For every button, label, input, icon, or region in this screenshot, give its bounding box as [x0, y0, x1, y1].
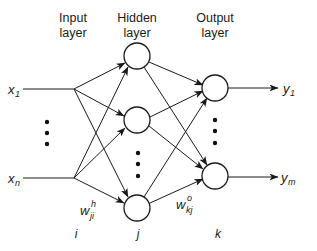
output-layer-title-2: layer — [201, 26, 228, 40]
input-hidden-edges — [74, 63, 128, 203]
output-label-ym: y m — [280, 170, 296, 187]
hidden-node-2 — [124, 107, 150, 133]
weight-label-hidden: w h ji — [80, 199, 96, 221]
output-index-label: k — [215, 227, 222, 241]
svg-text:x: x — [7, 171, 15, 186]
hidden-layer-title: Hidden — [117, 11, 157, 25]
output-layer-title: Output — [196, 11, 234, 25]
input-label-x1: x 1 — [7, 82, 20, 99]
hidden-index-label: j — [135, 227, 140, 241]
output-ellipsis — [213, 118, 217, 145]
output-label-y1: y 1 — [282, 81, 295, 98]
input-layer-title-2: layer — [59, 26, 86, 40]
svg-text:1: 1 — [290, 88, 295, 98]
input-label-xn: x n — [7, 171, 20, 188]
input-layer-title: Input — [59, 11, 87, 25]
weight-label-output: w o kj — [176, 193, 194, 215]
svg-text:ji: ji — [89, 211, 95, 221]
neural-network-diagram: Input layer Hidden layer Output layer — [0, 0, 317, 251]
svg-text:n: n — [15, 178, 20, 188]
output-node-1 — [202, 75, 228, 101]
hidden-ellipsis — [136, 151, 140, 178]
svg-text:1: 1 — [15, 89, 20, 99]
svg-text:h: h — [91, 199, 96, 209]
svg-text:x: x — [7, 82, 15, 97]
hidden-node-1 — [124, 43, 150, 69]
svg-text:kj: kj — [186, 205, 194, 215]
hidden-node-j — [124, 195, 150, 221]
input-ellipsis — [45, 120, 49, 146]
input-index-label: i — [75, 227, 78, 241]
hidden-output-edges — [144, 62, 207, 203]
output-node-m — [202, 163, 228, 189]
hidden-layer-title-2: layer — [123, 26, 150, 40]
svg-text:m: m — [288, 177, 296, 187]
svg-text:o: o — [187, 193, 192, 203]
